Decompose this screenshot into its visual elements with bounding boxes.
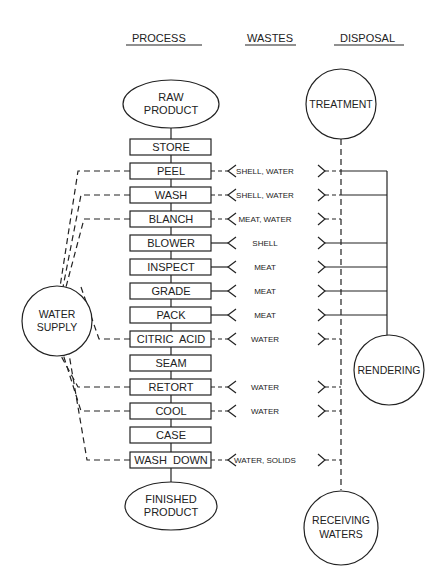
step-label: GRADE bbox=[151, 285, 190, 297]
step-label: STORE bbox=[152, 141, 190, 153]
svg-text:TREATMENT: TREATMENT bbox=[309, 98, 373, 110]
waste-label: MEAT bbox=[254, 263, 276, 272]
step-row: WASH DOWNWATER, SOLIDS bbox=[130, 452, 341, 468]
step-row: PEELSHELL, WATER bbox=[130, 163, 387, 179]
step-label: RETORT bbox=[149, 381, 194, 393]
svg-text:RAW: RAW bbox=[158, 91, 184, 103]
step-row: WASHSHELL, WATER bbox=[130, 187, 387, 203]
step-label: CITRIC ACID bbox=[137, 333, 206, 345]
waste-label: SHELL, WATER bbox=[236, 191, 294, 200]
step-row: GRADEMEAT bbox=[130, 283, 387, 299]
step-label: WASH bbox=[155, 189, 188, 201]
svg-text:PRODUCT: PRODUCT bbox=[144, 104, 199, 116]
svg-text:SUPPLY: SUPPLY bbox=[37, 321, 78, 333]
svg-text:FINISHED: FINISHED bbox=[145, 493, 196, 505]
waste-label: MEAT bbox=[254, 311, 276, 320]
finished-product-node: FINISHED PRODUCT bbox=[125, 482, 217, 530]
svg-text:WATERS: WATERS bbox=[319, 528, 363, 540]
svg-text:RECEIVING: RECEIVING bbox=[312, 514, 370, 526]
svg-text:PRODUCT: PRODUCT bbox=[144, 506, 199, 518]
process-steps: STOREPEELSHELL, WATERWASHSHELL, WATERBLA… bbox=[130, 139, 387, 468]
step-row: CASE bbox=[130, 427, 211, 443]
treatment-node: TREATMENT bbox=[306, 69, 376, 139]
svg-text:RENDERING: RENDERING bbox=[357, 364, 420, 376]
waste-label: MEAT bbox=[254, 287, 276, 296]
process-flow-diagram: PROCESS WASTES DISPOSAL RAW PRODUCT STOR… bbox=[0, 0, 442, 586]
step-label: INSPECT bbox=[147, 261, 195, 273]
waste-label: WATER, SOLIDS bbox=[234, 456, 296, 465]
waste-label: WATER bbox=[251, 383, 279, 392]
step-row: COOLWATER bbox=[130, 403, 341, 419]
waste-label: SHELL bbox=[252, 239, 278, 248]
step-label: BLOWER bbox=[147, 237, 195, 249]
step-label: WASH DOWN bbox=[134, 454, 208, 466]
step-row: RETORTWATER bbox=[130, 379, 341, 395]
header-wastes: WASTES bbox=[247, 32, 293, 44]
step-row: SEAM bbox=[130, 355, 211, 371]
waste-label: WATER bbox=[251, 335, 279, 344]
rendering-node: RENDERING bbox=[354, 335, 424, 405]
svg-text:WATER: WATER bbox=[39, 308, 76, 320]
step-row: PACKMEAT bbox=[130, 307, 387, 323]
receiving-waters-node: RECEIVING WATERS bbox=[304, 491, 378, 565]
step-label: SEAM bbox=[155, 357, 186, 369]
step-label: BLANCH bbox=[149, 213, 194, 225]
step-label: COOL bbox=[155, 405, 186, 417]
waste-label: WATER bbox=[251, 407, 279, 416]
step-row: CITRIC ACIDWATER bbox=[130, 331, 341, 347]
column-headers: PROCESS WASTES DISPOSAL bbox=[126, 32, 404, 45]
raw-product-node: RAW PRODUCT bbox=[123, 80, 219, 128]
header-process: PROCESS bbox=[132, 32, 186, 44]
step-row: STORE bbox=[130, 139, 211, 155]
header-disposal: DISPOSAL bbox=[340, 32, 395, 44]
water-supply-node: WATER SUPPLY bbox=[22, 286, 92, 356]
step-row: BLOWERSHELL bbox=[130, 235, 387, 251]
waste-label: MEAT, WATER bbox=[238, 215, 291, 224]
step-row: INSPECTMEAT bbox=[130, 259, 387, 275]
step-label: PEEL bbox=[157, 165, 185, 177]
step-row: BLANCHMEAT, WATER bbox=[130, 211, 341, 227]
step-label: CASE bbox=[156, 429, 186, 441]
waste-label: SHELL, WATER bbox=[236, 167, 294, 176]
step-label: PACK bbox=[156, 309, 186, 321]
